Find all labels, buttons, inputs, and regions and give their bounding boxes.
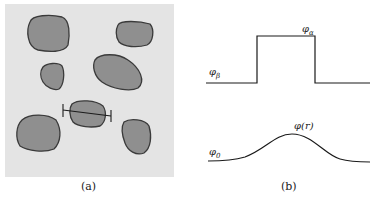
label-phi-r: φ(r): [294, 120, 314, 131]
particle-6: [17, 115, 60, 151]
particle-1: [28, 15, 69, 51]
step-profile: [206, 36, 370, 83]
panel-b-order-parameter: φβ φα φ0 φ(r) (b): [190, 0, 377, 199]
panel-a-microstructure: (a): [0, 0, 190, 199]
particle-2: [116, 22, 153, 47]
label-phi-beta: φβ: [209, 66, 220, 80]
smooth-profile: [208, 134, 370, 162]
label-phi-zero: φ0: [209, 146, 220, 160]
particle-5: [70, 101, 106, 127]
order-parameter-plots: [190, 0, 377, 199]
microstructure-diagram: [0, 0, 190, 199]
caption-a: (a): [81, 180, 96, 193]
caption-b: (b): [281, 180, 297, 193]
label-phi-alpha: φα: [302, 23, 314, 37]
